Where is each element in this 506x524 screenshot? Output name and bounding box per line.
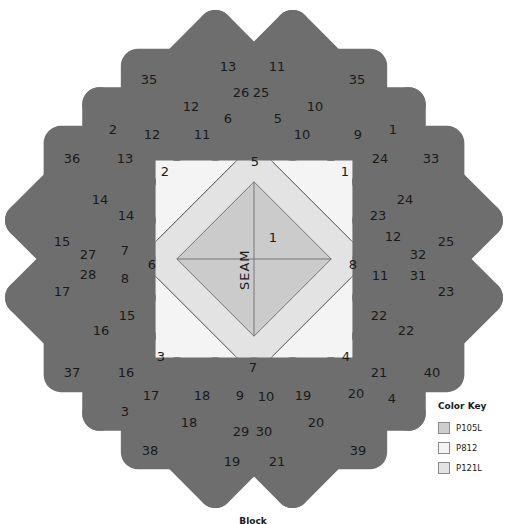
piece-number-label: 12 bbox=[144, 127, 161, 142]
piece-number-label: 39 bbox=[350, 443, 367, 458]
piece-number-label: 15 bbox=[119, 308, 136, 323]
piece-number-label: 15 bbox=[54, 234, 71, 249]
piece-number-label: 9 bbox=[354, 127, 362, 142]
piece-number-label: 6 bbox=[224, 111, 232, 126]
piece-number-label: 19 bbox=[295, 388, 312, 403]
piece-number-label: 10 bbox=[294, 127, 311, 142]
piece-number-label: 18 bbox=[181, 415, 198, 430]
piece-number-label: 8 bbox=[349, 257, 357, 272]
piece-number-label: 7 bbox=[121, 243, 129, 258]
piece-number-label: 2 bbox=[161, 164, 169, 179]
piece-number-label: 31 bbox=[410, 268, 427, 283]
piece-number-label: 37 bbox=[64, 365, 81, 380]
piece-number-label: 22 bbox=[371, 308, 388, 323]
color-key-item-p812: P812 bbox=[438, 438, 486, 458]
piece-number-label: 16 bbox=[118, 365, 135, 380]
piece-number-label: 30 bbox=[256, 424, 273, 439]
piece-number-label: 35 bbox=[141, 72, 158, 87]
piece-number-label: 4 bbox=[342, 349, 350, 364]
piece-number-label: 19 bbox=[224, 454, 241, 469]
piece-number-label: 22 bbox=[398, 323, 415, 338]
swatch-p121l bbox=[438, 462, 450, 474]
piece-number-label: 5 bbox=[251, 154, 259, 169]
piece-number-label: 7 bbox=[249, 360, 257, 375]
piece-number-label: 16 bbox=[93, 323, 110, 338]
piece-number-label: 26 bbox=[233, 85, 250, 100]
piece-number-label: 20 bbox=[348, 386, 365, 401]
diagram-caption: Block bbox=[0, 516, 506, 524]
piece-number-label: 27 bbox=[80, 247, 97, 262]
quilt-block-diagram: 1251683743513113526251210265112111093613… bbox=[0, 0, 506, 524]
piece-number-label: 24 bbox=[372, 151, 389, 166]
color-key: Color Key P105L P812 P121L bbox=[438, 401, 486, 478]
swatch-p812 bbox=[438, 442, 450, 454]
color-key-label: P121L bbox=[456, 463, 482, 473]
piece-number-label: 13 bbox=[117, 151, 134, 166]
piece-number-label: 17 bbox=[54, 284, 71, 299]
piece-number-label: 11 bbox=[194, 127, 211, 142]
piece-number-label: 18 bbox=[194, 388, 211, 403]
piece-number-label: 6 bbox=[148, 257, 156, 272]
color-key-item-p121l: P121L bbox=[438, 458, 486, 478]
piece-number-label: 23 bbox=[370, 208, 387, 223]
piece-number-label: 12 bbox=[183, 99, 200, 114]
piece-number-label: 2 bbox=[109, 122, 117, 137]
color-key-item-p105l: P105L bbox=[438, 418, 486, 438]
piece-number-label: 38 bbox=[142, 443, 159, 458]
piece-number-label: 20 bbox=[308, 415, 325, 430]
color-key-title: Color Key bbox=[438, 401, 486, 411]
piece-number-label: 21 bbox=[269, 454, 286, 469]
piece-number-label: 29 bbox=[233, 424, 250, 439]
piece-number-label: 1 bbox=[269, 230, 277, 245]
piece-number-label: 14 bbox=[92, 192, 109, 207]
piece-number-label: 3 bbox=[157, 349, 165, 364]
piece-number-label: 10 bbox=[258, 389, 275, 404]
piece-number-label: 40 bbox=[424, 365, 441, 380]
piece-number-label: 21 bbox=[371, 365, 388, 380]
piece-number-label: 9 bbox=[236, 388, 244, 403]
color-key-label: P105L bbox=[456, 423, 482, 433]
piece-number-label: 14 bbox=[118, 208, 135, 223]
piece-number-label: 24 bbox=[397, 192, 414, 207]
piece-number-label: 1 bbox=[389, 122, 397, 137]
piece-number-label: 25 bbox=[438, 234, 455, 249]
seam-label: SEAM bbox=[237, 249, 252, 290]
piece-number-label: 8 bbox=[121, 271, 129, 286]
piece-number-label: 17 bbox=[143, 388, 160, 403]
piece-number-label: 1 bbox=[341, 164, 349, 179]
piece-number-label: 33 bbox=[423, 151, 440, 166]
piece-number-label: 12 bbox=[385, 229, 402, 244]
piece-number-label: 35 bbox=[349, 72, 366, 87]
piece-number-label: 11 bbox=[372, 268, 389, 283]
piece-number-label: 28 bbox=[80, 267, 97, 282]
piece-number-label: 13 bbox=[220, 59, 237, 74]
piece-number-label: 5 bbox=[274, 111, 282, 126]
piece-number-label: 25 bbox=[253, 85, 270, 100]
color-key-label: P812 bbox=[456, 443, 477, 453]
piece-number-label: 32 bbox=[410, 247, 427, 262]
piece-number-label: 11 bbox=[269, 59, 286, 74]
piece-number-label: 3 bbox=[121, 404, 129, 419]
piece-number-label: 36 bbox=[64, 151, 81, 166]
swatch-p105l bbox=[438, 422, 450, 434]
piece-number-label: 10 bbox=[307, 99, 324, 114]
piece-number-label: 4 bbox=[388, 391, 396, 406]
piece-number-label: 23 bbox=[438, 284, 455, 299]
